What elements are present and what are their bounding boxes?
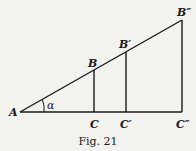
hypotenuse-AB2 bbox=[20, 20, 182, 112]
label-C-prime: C′ bbox=[120, 119, 132, 130]
label-B-double-prime: B″ bbox=[177, 7, 191, 18]
figure-21: A α B B′ B″ C C′ C″ Fig. 21 bbox=[0, 0, 196, 151]
label-A: A bbox=[9, 107, 18, 118]
angle-arc bbox=[43, 100, 45, 112]
label-alpha: α bbox=[47, 100, 54, 111]
label-C: C bbox=[90, 119, 99, 130]
figure-caption: Fig. 21 bbox=[0, 135, 196, 148]
label-B: B bbox=[88, 58, 97, 69]
label-C-double-prime: C″ bbox=[176, 119, 190, 130]
label-B-prime: B′ bbox=[119, 39, 131, 50]
